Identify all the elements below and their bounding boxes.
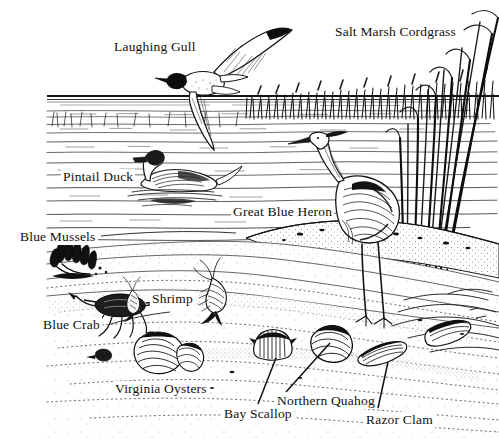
estuary-illustration-figure: Laughing Gull Salt Marsh Cordgrass Pinta…: [0, 0, 499, 442]
illustration-artwork: [0, 0, 499, 442]
label-virginia-oysters: Virginia Oysters: [113, 381, 209, 397]
label-great-blue-heron: Great Blue Heron: [231, 204, 334, 220]
label-salt-marsh-cordgrass: Salt Marsh Cordgrass: [333, 24, 458, 40]
label-laughing-gull: Laughing Gull: [112, 39, 198, 55]
label-razor-clam: Razor Clam: [364, 412, 435, 428]
label-blue-crab: Blue Crab: [41, 317, 102, 333]
label-northern-quahog: Northern Quahog: [275, 393, 377, 409]
label-shrimp: Shrimp: [150, 291, 195, 307]
label-pintail-duck: Pintail Duck: [61, 169, 135, 185]
label-blue-mussels: Blue Mussels: [18, 229, 98, 245]
